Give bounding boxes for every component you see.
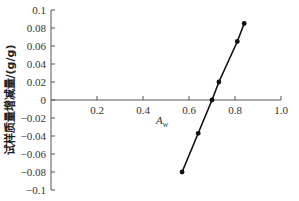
data-point <box>180 170 185 175</box>
x-axis: 0.20.40.60.81.0 <box>51 96 288 116</box>
y-tick-label: 0.06 <box>27 40 47 52</box>
y-tick-label: −0.06 <box>21 148 47 160</box>
data-point <box>217 80 222 85</box>
data-point <box>196 131 201 136</box>
y-tick-label: −0.02 <box>21 112 46 124</box>
x-tick-label: 1.0 <box>274 104 288 116</box>
y-tick-label: 0.02 <box>27 76 46 88</box>
y-axis: 0.10.080.060.040.020−0.02−0.04−0.06−0.08… <box>21 4 55 196</box>
x-tick-label: 0.4 <box>136 104 150 116</box>
y-axis-label: 试样质量增减量/(g/g) <box>3 45 17 156</box>
x-tick-label: 0.2 <box>90 104 104 116</box>
y-tick-label: −0.1 <box>26 184 46 196</box>
y-tick-label: 0 <box>41 94 47 106</box>
data-point <box>235 39 240 44</box>
y-tick-label: 0.04 <box>27 58 47 70</box>
y-tick-label: 0.1 <box>32 4 46 16</box>
data-series <box>180 21 247 174</box>
x-axis-label: Aw <box>155 114 169 129</box>
y-tick-label: 0.08 <box>27 22 47 34</box>
data-point <box>210 98 215 103</box>
data-point <box>242 21 247 26</box>
y-tick-label: −0.08 <box>21 166 47 178</box>
x-tick-label: 0.8 <box>228 104 242 116</box>
y-tick-label: −0.04 <box>21 130 47 142</box>
chart: 0.10.080.060.040.020−0.02−0.04−0.06−0.08… <box>0 0 299 201</box>
x-tick-label: 0.6 <box>182 104 196 116</box>
